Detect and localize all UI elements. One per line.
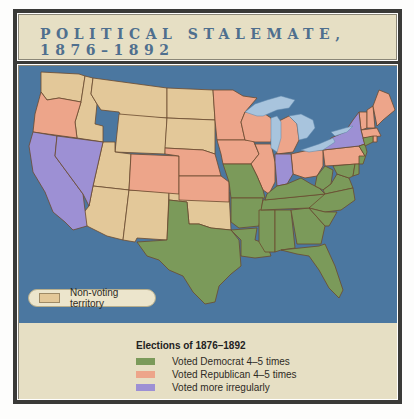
state-colorado xyxy=(129,154,179,194)
state-washington xyxy=(41,72,85,102)
democrat-swatch xyxy=(136,358,155,365)
title-line-2: 1876–1892 xyxy=(40,42,346,58)
legend: Elections of 1876–1892 Voted Democrat 4–… xyxy=(136,340,297,394)
non-voting-text: Non-voting territory xyxy=(70,287,155,309)
state-ohio xyxy=(291,150,323,178)
legend-title: Elections of 1876–1892 xyxy=(136,340,297,351)
legend-label: Voted Democrat 4–5 times xyxy=(172,356,290,367)
legend-item-irregular: Voted more irregularly xyxy=(136,381,297,394)
republican-swatch xyxy=(136,371,155,378)
map-frame: POLITICAL STALEMATE, 1876–1892 xyxy=(13,9,402,404)
legend-item-republican: Voted Republican 4–5 times xyxy=(136,368,297,381)
legend-label: Voted Republican 4–5 times xyxy=(172,369,297,380)
state-new-mexico xyxy=(123,190,169,242)
state-rhode-island xyxy=(373,136,377,142)
state-kansas xyxy=(179,176,229,202)
legend-label: Voted more irregularly xyxy=(172,382,270,393)
state-mississippi xyxy=(259,210,275,252)
state-north-dakota xyxy=(167,88,215,120)
state-iowa xyxy=(217,140,259,164)
irregular-swatch xyxy=(136,384,155,391)
state-wyoming xyxy=(115,114,167,154)
non-voting-swatch xyxy=(39,293,60,303)
state-arkansas xyxy=(231,198,263,228)
map-title: POLITICAL STALEMATE, 1876–1892 xyxy=(40,26,346,58)
non-voting-territory-label: Non-voting territory xyxy=(28,289,156,307)
title-box: POLITICAL STALEMATE, 1876–1892 xyxy=(17,13,398,61)
map-panel: Non-voting territory Elections of 1876–1… xyxy=(17,64,398,400)
title-line-1: POLITICAL STALEMATE, xyxy=(40,26,346,42)
legend-item-democrat: Voted Democrat 4–5 times xyxy=(136,355,297,368)
